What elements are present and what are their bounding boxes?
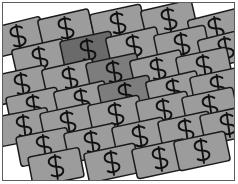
money-bills-svg [0, 0, 238, 184]
money-bills-artwork [0, 0, 238, 184]
bills-group [0, 0, 238, 184]
illustration-canvas: Scattered Money Bills Illustration Many … [0, 0, 238, 184]
